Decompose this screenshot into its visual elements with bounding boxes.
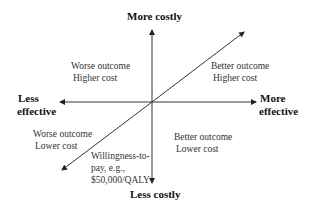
- right-axis-label-2: effective: [259, 105, 298, 117]
- left-axis-label-2: effective: [17, 105, 56, 117]
- quadrant-top-left: Worse outcome Higher cost: [71, 60, 130, 84]
- quadrant-bottom-right: Better outcome Lower cost: [174, 131, 232, 155]
- wtp-label: Willingness-to- pay, e.g., $50,000/QALY: [91, 150, 150, 186]
- bottom-axis-label: Less costly: [130, 188, 180, 200]
- quadrant-top-right: Better outcome Higher cost: [211, 60, 269, 84]
- left-axis-label-1: Less: [18, 92, 39, 104]
- right-axis-label-1: More: [260, 92, 285, 104]
- cost-effectiveness-plane: More costly Less costly Less effective M…: [0, 0, 313, 206]
- quadrant-bottom-left: Worse outcome Lower cost: [33, 128, 92, 152]
- top-axis-label: More costly: [127, 10, 182, 22]
